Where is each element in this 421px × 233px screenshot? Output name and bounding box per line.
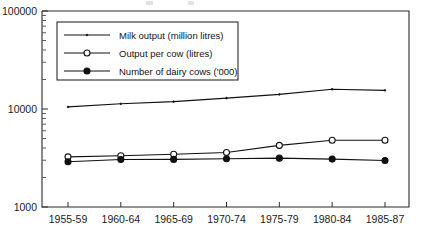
- legend-label: Number of dairy cows ('000): [119, 66, 238, 77]
- x-axis-tick-labels: 1955-591960-641965-691970-741975-791980-…: [49, 213, 405, 225]
- data-point: [224, 156, 230, 162]
- data-point: [226, 97, 228, 99]
- legend-label: Milk output (million litres): [119, 30, 224, 41]
- x-tick-label: 1975-79: [260, 213, 299, 225]
- y-tick-label: 100000: [2, 5, 37, 17]
- data-point: [329, 137, 335, 143]
- chart-figure: 100010000100000 1955-591960-641965-69197…: [0, 0, 421, 233]
- line-chart: 100010000100000 1955-591960-641965-69197…: [0, 0, 421, 233]
- x-tick-label: 1955-59: [49, 213, 88, 225]
- data-point: [329, 156, 335, 162]
- data-point: [224, 149, 230, 155]
- data-point: [67, 106, 69, 108]
- data-point: [120, 103, 122, 105]
- x-tick-label: 1985-87: [366, 213, 405, 225]
- data-point: [382, 158, 388, 164]
- x-tick-label: 1960-64: [102, 213, 141, 225]
- data-point: [171, 156, 177, 162]
- data-point: [382, 137, 388, 143]
- legend: Milk output (million litres)Output per c…: [57, 22, 238, 80]
- cropped-title-artifact-2: [188, 1, 194, 5]
- data-point: [384, 89, 386, 91]
- data-point: [276, 142, 282, 148]
- cropped-title-artifact: [146, 1, 153, 5]
- legend-label: Output per cow (litres): [119, 48, 212, 59]
- legend-marker: [86, 34, 88, 36]
- data-point: [118, 157, 124, 163]
- x-tick-label: 1965-69: [154, 213, 193, 225]
- legend-marker: [84, 68, 90, 74]
- data-point: [331, 88, 333, 90]
- data-point: [65, 159, 71, 165]
- data-point: [276, 155, 282, 161]
- data-point: [278, 93, 280, 95]
- data-point: [173, 101, 175, 103]
- y-tick-label: 1000: [14, 201, 38, 213]
- x-tick-label: 1970-74: [207, 213, 246, 225]
- x-tick-label: 1980-84: [313, 213, 352, 225]
- legend-marker: [84, 50, 90, 56]
- y-tick-label: 10000: [8, 103, 37, 115]
